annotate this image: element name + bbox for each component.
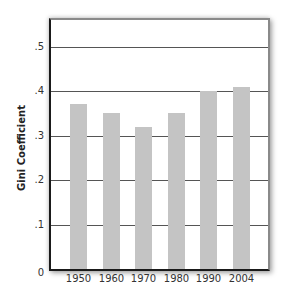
bar-1970 — [135, 127, 152, 269]
bar-1950 — [70, 104, 87, 269]
y-tick-label: .4 — [30, 86, 44, 96]
y-tick-label: 0 — [30, 268, 44, 278]
x-tick-label: 1980 — [162, 274, 192, 284]
x-tick-label: 1950 — [64, 274, 94, 284]
x-tick-label: 2004 — [227, 274, 257, 284]
y-tick-label: .5 — [30, 42, 44, 52]
bar-2004 — [233, 87, 250, 269]
y-tick-label: .2 — [30, 175, 44, 185]
bar-1960 — [103, 113, 120, 269]
y-tick-label: .1 — [30, 220, 44, 230]
gridline — [51, 47, 268, 48]
x-tick-label: 1990 — [194, 274, 224, 284]
bar-1980 — [168, 113, 185, 269]
plot-area — [49, 18, 270, 271]
x-tick-label: 1960 — [97, 274, 127, 284]
bar-1990 — [200, 91, 217, 269]
y-tick-label: .3 — [30, 131, 44, 141]
y-axis-label: Gini Coefficient — [16, 105, 27, 191]
gini-coefficient-bar-chart: Gini Coefficient 0.1.2.3.4.5 19501960197… — [0, 0, 286, 293]
x-tick-label: 1970 — [129, 274, 159, 284]
